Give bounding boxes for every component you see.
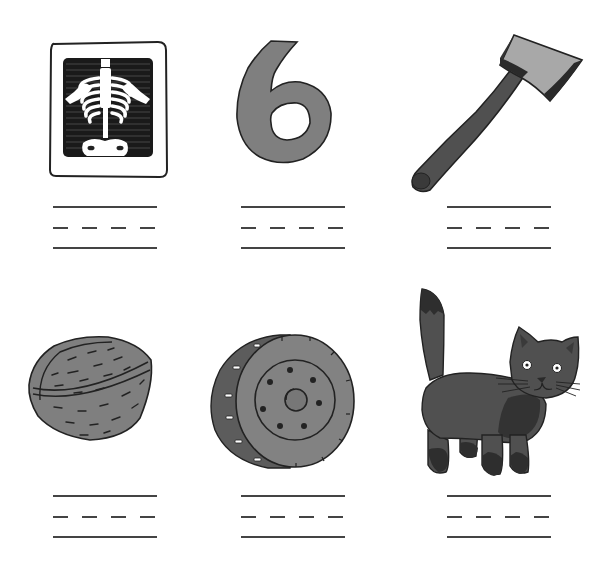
writing-lines[interactable] [447, 206, 551, 250]
tire-icon [200, 280, 400, 480]
bottom-guide-line [53, 536, 157, 538]
mid-dashed-line [447, 516, 551, 518]
writing-lines[interactable] [241, 495, 345, 539]
axe-icon [400, 0, 612, 200]
bottom-guide-line [241, 536, 345, 538]
mid-dashed-line [447, 227, 551, 229]
writing-lines[interactable] [241, 206, 345, 250]
top-guide-line [241, 495, 345, 497]
number-six-icon [200, 0, 400, 190]
xray-icon [0, 0, 200, 190]
item-six [200, 0, 400, 260]
walnut-icon [0, 280, 200, 480]
top-guide-line [53, 495, 157, 497]
cat-icon [400, 280, 612, 490]
top-guide-line [53, 206, 157, 208]
bottom-guide-line [53, 247, 157, 249]
mid-dashed-line [241, 516, 345, 518]
bottom-guide-line [447, 247, 551, 249]
top-guide-line [447, 495, 551, 497]
item-cat [400, 280, 612, 582]
writing-lines[interactable] [53, 206, 157, 250]
writing-lines[interactable] [53, 495, 157, 539]
bottom-guide-line [447, 536, 551, 538]
writing-lines[interactable] [447, 495, 551, 539]
item-axe [400, 0, 612, 260]
top-guide-line [447, 206, 551, 208]
item-walnut [0, 280, 200, 582]
mid-dashed-line [53, 227, 157, 229]
item-xray [0, 0, 200, 260]
item-tire [200, 280, 400, 582]
mid-dashed-line [241, 227, 345, 229]
bottom-guide-line [241, 247, 345, 249]
top-guide-line [241, 206, 345, 208]
mid-dashed-line [53, 516, 157, 518]
